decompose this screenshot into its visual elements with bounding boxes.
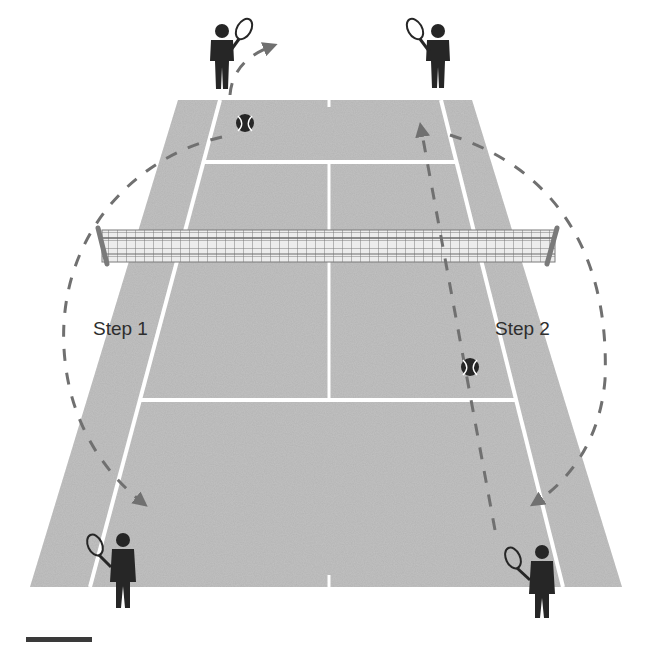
net	[98, 228, 557, 264]
ball-near	[461, 358, 479, 376]
step2-label: Step 2	[495, 318, 550, 340]
scale-bar	[26, 637, 92, 642]
step1-label: Step 1	[93, 318, 148, 340]
ball-far	[236, 114, 254, 132]
player-far-right	[403, 16, 450, 88]
court-surface	[30, 100, 622, 587]
player-far-left	[210, 16, 256, 89]
small-arc-path	[230, 46, 272, 95]
tennis-drill-diagram: Step 1 Step 2	[0, 0, 652, 646]
